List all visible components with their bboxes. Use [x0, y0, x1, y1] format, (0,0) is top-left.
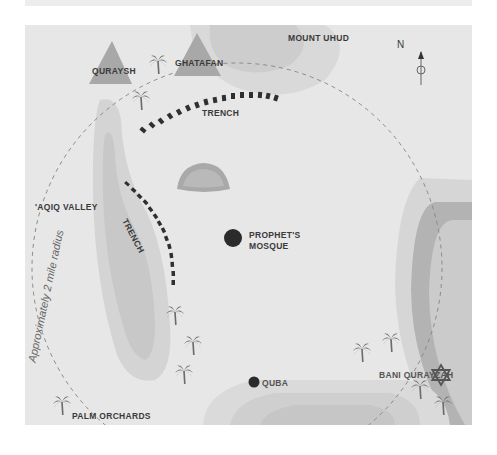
palm-tree-icon [53, 397, 71, 415]
top-band [25, 0, 472, 6]
south-hill-terrain [203, 380, 450, 425]
quraysh-camp-icon [89, 41, 132, 84]
north-arrow-icon [417, 51, 425, 85]
label-bani-qurayzah: BANI QURAYZAH [379, 370, 453, 381]
palm-tree-icon [184, 337, 202, 355]
label-palm-orchards: PALM ORCHARDS [72, 411, 151, 422]
label-prophets-mosque-line1: PROPHET'S [249, 230, 300, 241]
label-trench-north: TRENCH [202, 108, 239, 119]
palm-tree-icon [382, 334, 400, 352]
compass-north-label: N [397, 39, 405, 52]
quba-marker [249, 377, 260, 388]
palm-tree-icon [175, 366, 193, 384]
label-mount-uhud: MOUNT UHUD [288, 33, 349, 44]
label-prophets-mosque: PROPHET'S MOSQUE [249, 230, 300, 251]
prophets-mosque-marker [224, 229, 242, 247]
palm-tree-icon [132, 92, 150, 110]
label-aqiq-valley: 'AQIQ VALLEY [35, 202, 98, 213]
label-prophets-mosque-line2: MOSQUE [249, 241, 300, 252]
map: MOUNT UHUD QURAYSH GHATAFAN TRENCH TRENC… [25, 25, 472, 425]
palm-tree-icon [353, 344, 371, 362]
label-quraysh: QURAYSH [92, 66, 136, 77]
label-quba: QUBA [262, 378, 288, 389]
label-ghatafan: GHATAFAN [175, 58, 223, 69]
palm-tree-icon [149, 56, 167, 74]
map-canvas [25, 25, 472, 425]
